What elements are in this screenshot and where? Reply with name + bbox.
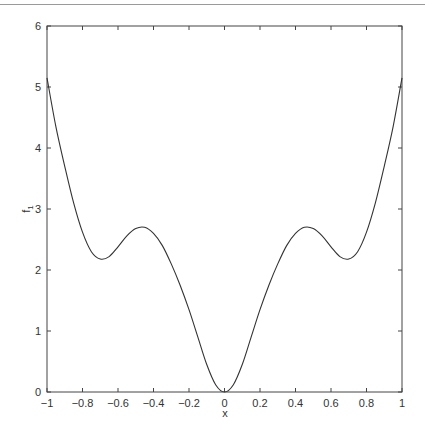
x-tick-label: 0.6 bbox=[323, 397, 338, 409]
x-tick-label: −0.4 bbox=[143, 397, 165, 409]
y-tick-label: 5 bbox=[35, 81, 41, 93]
y-tick-labels: 0123456 bbox=[35, 20, 41, 398]
plot-area bbox=[47, 26, 402, 392]
x-tick-label: 0.4 bbox=[288, 397, 303, 409]
x-tick-label: −0.2 bbox=[178, 397, 200, 409]
x-axis-label: x bbox=[222, 407, 228, 419]
x-tick-label: −1 bbox=[41, 397, 54, 409]
line-chart: −1−0.8−0.6−0.4−0.200.20.40.60.81 0123456… bbox=[0, 0, 425, 433]
y-tick-label: 6 bbox=[35, 20, 41, 32]
x-tick-label: −0.8 bbox=[72, 397, 94, 409]
plot-box bbox=[47, 26, 402, 392]
y-tick-label: 3 bbox=[35, 203, 41, 215]
svg-text:f1: f1 bbox=[20, 205, 35, 213]
y-axis-label-subscript: 1 bbox=[26, 205, 35, 210]
y-tick-label: 2 bbox=[35, 264, 41, 276]
x-tick-label: 0.8 bbox=[359, 397, 374, 409]
y-tick-label: 4 bbox=[35, 142, 41, 154]
y-axis-label: f1 bbox=[20, 205, 35, 213]
y-tick-label: 1 bbox=[35, 325, 41, 337]
x-tick-label: −0.6 bbox=[107, 397, 129, 409]
x-tick-label: 1 bbox=[399, 397, 405, 409]
x-tick-label: 0.2 bbox=[252, 397, 267, 409]
y-tick-label: 0 bbox=[35, 386, 41, 398]
